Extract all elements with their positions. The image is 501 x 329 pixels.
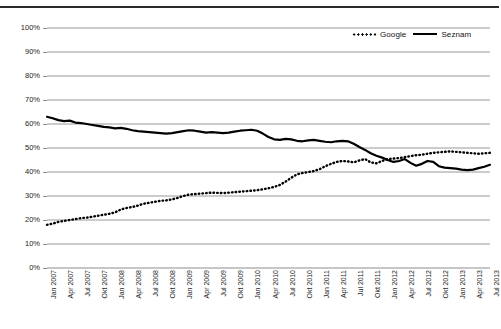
x-axis-tick-label: Jan 2012 <box>391 270 399 328</box>
x-axis-tick-label: Okt 2010 <box>306 270 314 328</box>
x-axis-tick-label: Apr 2009 <box>203 270 211 328</box>
solid-line-icon <box>413 33 437 36</box>
x-axis-tick-label: Apr 2011 <box>340 270 348 328</box>
y-axis-tick-label: 90% <box>0 48 40 56</box>
x-axis-tick-label: Apr 2012 <box>408 270 416 328</box>
y-axis-tick-label: 50% <box>0 144 40 152</box>
x-axis-tick-label: Okt 2011 <box>374 270 382 328</box>
y-axis-tick-label: 40% <box>0 168 40 176</box>
gridlines-group <box>47 28 490 268</box>
x-axis-labels: Jan 2007Apr 2007Jul 2007Okt 2007Jan 2008… <box>47 270 490 328</box>
x-axis-tick-label: Jul 2007 <box>84 270 92 328</box>
y-axis-tick <box>43 268 47 269</box>
x-axis-tick-label: Jan 2007 <box>50 270 58 328</box>
dotted-line-icon <box>352 33 376 36</box>
y-axis-labels: 100%90%80%70%60%50%40%30%20%10%0% <box>0 28 44 268</box>
x-axis-tick-label: Jul 2008 <box>152 270 160 328</box>
x-axis-tick-label: Jan 2011 <box>323 270 331 328</box>
y-axis-tick-label: 70% <box>0 96 40 104</box>
x-axis-tick-label: Jan 2010 <box>254 270 262 328</box>
x-axis-tick-label: Jan 2009 <box>186 270 194 328</box>
y-axis-tick-label: 100% <box>0 24 40 32</box>
x-axis-tick-label: Okt 2012 <box>442 270 450 328</box>
y-axis-tick-label: 10% <box>0 240 40 248</box>
y-axis-tick-label: 0% <box>0 264 40 272</box>
x-axis-tick-label: Apr 2007 <box>67 270 75 328</box>
x-axis-tick-label: Jul 2011 <box>357 270 365 328</box>
x-axis-tick-label: Okt 2009 <box>237 270 245 328</box>
x-axis-tick-label: Apr 2013 <box>476 270 484 328</box>
legend-label-seznam: Seznam <box>441 30 471 39</box>
x-axis-tick-label: Jan 2008 <box>118 270 126 328</box>
series-line-seznam <box>47 117 490 170</box>
plot-area <box>47 28 490 268</box>
x-axis-tick-label: Jul 2013 <box>493 270 501 328</box>
x-axis-tick-label: Jul 2010 <box>289 270 297 328</box>
top-divider <box>0 6 499 8</box>
legend-label-google: Google <box>380 30 406 39</box>
x-axis-tick-label: Apr 2010 <box>272 270 280 328</box>
y-axis-tick-label: 30% <box>0 192 40 200</box>
x-axis-tick-label: Okt 2008 <box>169 270 177 328</box>
x-axis-tick-label: Jul 2009 <box>220 270 228 328</box>
x-axis-tick-label: Apr 2008 <box>135 270 143 328</box>
header-faint-text <box>375 0 495 6</box>
x-axis-tick-label: Jul 2012 <box>425 270 433 328</box>
y-axis-tick-label: 80% <box>0 72 40 80</box>
y-axis-tick-label: 60% <box>0 120 40 128</box>
x-axis-tick-label: Okt 2007 <box>101 270 109 328</box>
legend-entry-seznam: Seznam <box>413 30 471 39</box>
x-axis-tick-label: Jan 2013 <box>459 270 467 328</box>
series-layer <box>47 28 490 268</box>
y-axis-tick-label: 20% <box>0 216 40 224</box>
chart-legend: Google Seznam <box>352 27 471 41</box>
legend-entry-google: Google <box>352 30 406 39</box>
